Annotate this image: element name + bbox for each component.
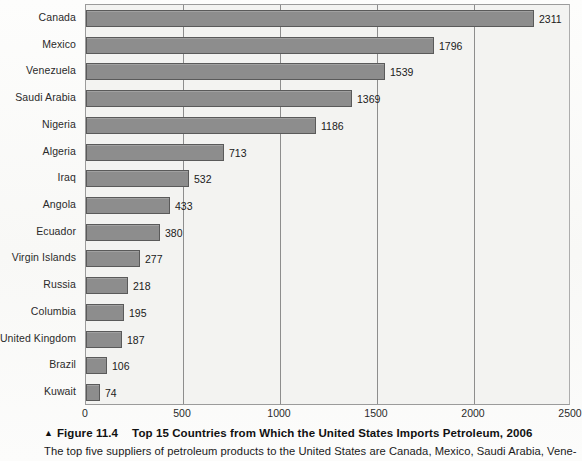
category-label-russia: Russia xyxy=(43,276,76,293)
category-label-angola: Angola xyxy=(43,196,76,213)
bar-value-label: 187 xyxy=(127,331,145,348)
bar-value-label: 1796 xyxy=(439,37,462,54)
bar-row[interactable]: 532 xyxy=(86,170,571,187)
bar-value-label: 74 xyxy=(105,384,117,401)
bar-value-label: 433 xyxy=(175,197,193,214)
bar-virgin-islands[interactable] xyxy=(86,250,140,267)
bar-row[interactable]: 187 xyxy=(86,331,571,348)
category-axis-labels: CanadaMexicoVenezuelaSaudi ArabiaNigeria… xyxy=(0,4,80,405)
bar-value-label: 713 xyxy=(229,144,247,161)
bar-columbia[interactable] xyxy=(86,304,124,321)
bar-angola[interactable] xyxy=(86,197,170,214)
x-tick-2000: 2000 xyxy=(461,407,484,419)
category-label-canada: Canada xyxy=(39,9,76,26)
category-label-algeria: Algeria xyxy=(43,143,76,160)
category-label-nigeria: Nigeria xyxy=(42,116,76,133)
bar-row[interactable]: 74 xyxy=(86,384,571,401)
bar-venezuela[interactable] xyxy=(86,63,385,80)
x-tick-1500: 1500 xyxy=(364,407,387,419)
bar-iraq[interactable] xyxy=(86,170,189,187)
bar-canada[interactable] xyxy=(86,10,534,27)
bar-row[interactable]: 1539 xyxy=(86,63,571,80)
bar-nigeria[interactable] xyxy=(86,117,316,134)
bar-row[interactable]: 1369 xyxy=(86,90,571,107)
figure-caption-title-line: ▲ Figure 11.4 Top 15 Countries from Whic… xyxy=(44,426,578,442)
bar-row[interactable]: 433 xyxy=(86,197,571,214)
category-label-united-kingdom: United Kingdom xyxy=(0,330,76,347)
bar-value-label: 532 xyxy=(194,170,212,187)
bar-algeria[interactable] xyxy=(86,144,224,161)
x-tick-1000: 1000 xyxy=(267,407,290,419)
bar-row[interactable]: 1796 xyxy=(86,37,571,54)
bar-saudi-arabia[interactable] xyxy=(86,90,352,107)
bar-ecuador[interactable] xyxy=(86,224,160,241)
bar-row[interactable]: 218 xyxy=(86,277,571,294)
bar-row[interactable]: 380 xyxy=(86,224,571,241)
figure-title: Top 15 Countries from Which the United S… xyxy=(132,426,532,441)
x-tick-0: 0 xyxy=(82,407,88,419)
category-label-virgin-islands: Virgin Islands xyxy=(12,249,76,266)
bar-mexico[interactable] xyxy=(86,37,434,54)
bar-value-label: 1369 xyxy=(357,90,380,107)
figure-caption-body: The top five suppliers of petroleum prod… xyxy=(44,444,578,458)
figure-caption: ▲ Figure 11.4 Top 15 Countries from Whic… xyxy=(44,426,578,458)
category-label-saudi-arabia: Saudi Arabia xyxy=(15,89,76,106)
bar-united-kingdom[interactable] xyxy=(86,331,122,348)
category-label-mexico: Mexico xyxy=(42,36,76,53)
bar-value-label: 106 xyxy=(112,357,130,374)
bar-brazil[interactable] xyxy=(86,357,107,374)
up-triangle-icon: ▲ xyxy=(44,426,53,441)
bar-value-label: 1186 xyxy=(321,117,344,134)
x-tick-500: 500 xyxy=(173,407,191,419)
bar-value-label: 1539 xyxy=(390,63,413,80)
bar-value-label: 277 xyxy=(145,250,163,267)
bar-kuwait[interactable] xyxy=(86,384,100,401)
plot-area: 2311179615391369118671353243338027721819… xyxy=(85,4,570,405)
bar-row[interactable]: 2311 xyxy=(86,10,571,27)
category-label-columbia: Columbia xyxy=(31,303,76,320)
figure-number: Figure 11.4 xyxy=(57,426,118,441)
bar-value-label: 2311 xyxy=(539,10,562,27)
category-label-kuwait: Kuwait xyxy=(44,383,76,400)
bar-chart-figure: CanadaMexicoVenezuelaSaudi ArabiaNigeria… xyxy=(0,0,582,420)
category-label-iraq: Iraq xyxy=(58,169,77,186)
category-label-ecuador: Ecuador xyxy=(36,223,76,240)
bar-russia[interactable] xyxy=(86,277,128,294)
bar-value-label: 218 xyxy=(133,277,151,294)
x-tick-2500: 2500 xyxy=(558,407,581,419)
bar-row[interactable]: 195 xyxy=(86,304,571,321)
category-label-brazil: Brazil xyxy=(49,356,76,373)
bar-row[interactable]: 106 xyxy=(86,357,571,374)
bar-row[interactable]: 277 xyxy=(86,250,571,267)
category-label-venezuela: Venezuela xyxy=(26,62,76,79)
value-axis-ticks: 05001000150020002500 xyxy=(85,406,570,422)
bar-row[interactable]: 1186 xyxy=(86,117,571,134)
bar-value-label: 195 xyxy=(129,304,147,321)
bar-value-label: 380 xyxy=(165,224,183,241)
bar-row[interactable]: 713 xyxy=(86,144,571,161)
